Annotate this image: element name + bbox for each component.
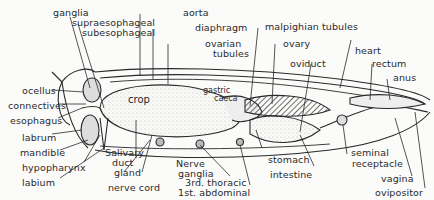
label-seminal: seminal bbox=[351, 148, 389, 158]
label-crop: crop bbox=[128, 95, 150, 105]
stomach-shape bbox=[250, 116, 320, 143]
label-vagina: vagina bbox=[381, 174, 414, 184]
label-subesophageal: subesophageal bbox=[82, 28, 155, 38]
label-malpighian-tubules: malpighian tubules bbox=[265, 22, 358, 32]
label-nerve-cord: nerve cord bbox=[108, 183, 160, 193]
label-labium: labium bbox=[22, 178, 55, 188]
label-aorta: aorta bbox=[183, 8, 209, 18]
label-ovary: ovary bbox=[283, 39, 310, 49]
label-diaphragm: diaphragm bbox=[195, 23, 247, 33]
label-stomach: stomach bbox=[268, 155, 310, 165]
label-gastric-caeca-2: caeca bbox=[214, 94, 238, 104]
label-heart: heart bbox=[355, 46, 381, 56]
ovary-shape bbox=[245, 95, 330, 116]
label-1st-abdominal: 1st. abdominal bbox=[178, 188, 250, 198]
label-anus: anus bbox=[393, 73, 416, 83]
label-rectum: rectum bbox=[372, 59, 406, 69]
label-connectives: connectives bbox=[8, 101, 66, 111]
label-salivary-gland: gland bbox=[114, 168, 141, 178]
label-oviduct: oviduct bbox=[290, 59, 326, 69]
label-ovarian-tubules-2: tubules bbox=[213, 49, 249, 59]
anatomy-diagram: ganglia supraesophageal subesophageal ao… bbox=[0, 0, 434, 200]
label-esophagus: esophagus bbox=[10, 116, 62, 126]
label-hypopharynx: hypopharynx bbox=[22, 163, 86, 173]
label-receptacle: receptacle bbox=[352, 159, 403, 169]
label-labrum: labrum bbox=[22, 133, 56, 143]
label-ocellus: ocellus bbox=[22, 86, 56, 96]
label-ovipositor: ovipositor bbox=[375, 188, 423, 198]
label-intestine: intestine bbox=[270, 170, 312, 180]
label-mandible: mandible bbox=[20, 148, 65, 158]
